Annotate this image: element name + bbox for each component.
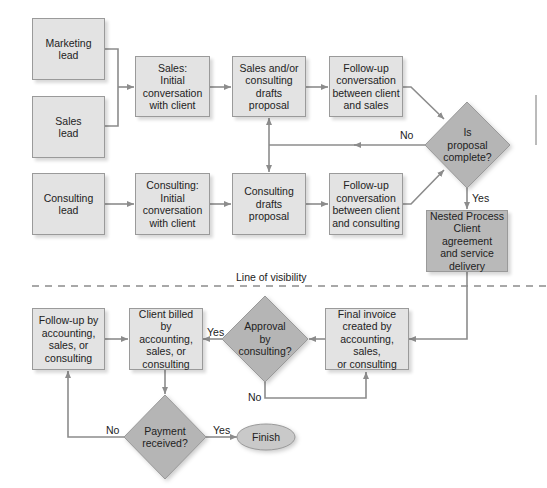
line-of-visibility-label: Line of visibility [236, 271, 307, 283]
edge-label-payment-yes: Yes [213, 424, 230, 436]
edge-label-approval-no: No [248, 391, 261, 403]
approval-no-loop [265, 372, 366, 398]
arrow-to-final-invoice [409, 272, 467, 339]
node-consulting-lead: Consulting lead [32, 173, 105, 235]
node-sales-initial-conversation: Sales: Initial conversation with client [135, 56, 210, 117]
node-followup-sales: Follow-up conversation between client an… [329, 56, 403, 117]
label-payment-received: Payment received? [124, 420, 206, 454]
node-consulting-drafts-proposal: Consulting drafts proposal [232, 173, 306, 235]
node-sales-lead: Sales lead [32, 96, 105, 158]
node-finish: Finish [237, 428, 295, 446]
arrow-to-diamond-bottom [403, 170, 444, 204]
label-approval-by-consulting: Approval by consulting? [222, 310, 308, 368]
edge-label-approval-yes: Yes [207, 326, 224, 338]
node-nested-process: Nested Process Client agreement and serv… [426, 210, 508, 272]
node-followup-accounting: Follow-up by accounting, sales, or consu… [32, 308, 105, 370]
node-followup-consulting: Follow-up conversation between client an… [329, 173, 403, 235]
node-marketing-lead: Marketing lead [32, 18, 105, 80]
edge-label-no: No [400, 129, 413, 141]
edge-label-yes: Yes [472, 192, 489, 204]
edge-label-payment-no: No [106, 424, 119, 436]
label-is-proposal-complete: Is proposal complete? [425, 115, 510, 175]
node-client-billed: Client billed by accounting, sales, or c… [129, 308, 203, 370]
node-consulting-initial-conversation: Consulting: Initial conversation with cl… [135, 173, 210, 235]
node-final-invoice: Final invoice created by accounting, sal… [325, 308, 409, 370]
node-sales-consulting-drafts-proposal: Sales and/or consulting drafts proposal [232, 56, 306, 117]
lead-merge-line [105, 49, 118, 126]
service-blueprint-flowchart: Marketing lead Sales lead Sales: Initial… [0, 0, 547, 488]
